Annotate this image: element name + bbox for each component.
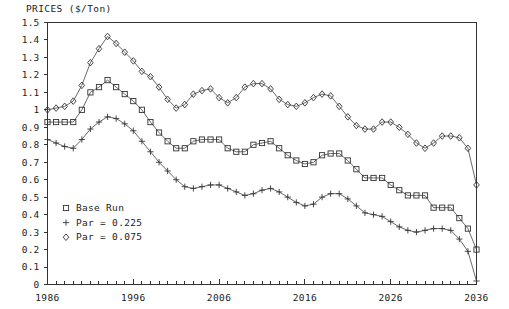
data-point-marker-plus	[44, 136, 50, 142]
data-point-marker-plus	[104, 114, 110, 120]
y-tick-label: 0.7	[22, 157, 40, 168]
data-point-marker-plus	[413, 229, 419, 235]
data-point-marker-plus	[336, 191, 342, 197]
data-point-marker-plus	[53, 140, 59, 146]
y-tick-label: 0.2	[22, 244, 40, 255]
data-point-marker-plus	[225, 185, 231, 191]
y-axis-tick-labels: 00.10.20.30.40.50.60.70.80.911.11.21.31.…	[22, 17, 40, 290]
y-tick-label: 1.5	[22, 17, 40, 28]
y-tick-label: 0.1	[22, 261, 40, 272]
y-tick-label: 0	[34, 279, 40, 290]
data-point-marker-plus	[431, 226, 437, 232]
data-point-marker-plus	[250, 191, 256, 197]
data-point-marker-plus	[259, 187, 265, 193]
x-tick-label: 2006	[207, 292, 231, 303]
legend-label: Base Run	[76, 202, 124, 213]
data-point-marker-square	[63, 205, 68, 210]
y-tick-label: 1.3	[22, 52, 40, 63]
data-point-marker-plus	[285, 194, 291, 200]
data-point-marker-plus	[62, 143, 68, 149]
y-tick-label: 0.9	[22, 122, 40, 133]
legend-label: Par = 0.225	[76, 217, 142, 228]
legend-item-par-0-225: Par = 0.225	[63, 217, 142, 228]
y-tick-label: 1	[34, 104, 40, 115]
data-point-marker-plus	[113, 115, 119, 121]
data-point-marker-plus	[293, 199, 299, 205]
data-point-marker-plus	[439, 226, 445, 232]
x-tick-label: 2036	[464, 292, 488, 303]
data-point-marker-plus	[233, 189, 239, 195]
data-point-marker-plus	[242, 192, 248, 198]
data-point-marker-plus	[396, 224, 402, 230]
chart-legend: Base RunPar = 0.225Par = 0.075	[63, 202, 142, 242]
x-axis-tick-marks	[48, 279, 477, 285]
y-tick-label: 0.6	[22, 174, 40, 185]
data-point-marker-plus	[370, 212, 376, 218]
data-point-marker-plus	[207, 182, 213, 188]
data-point-marker-plus	[302, 203, 308, 209]
data-point-marker-plus	[63, 220, 69, 226]
y-axis-tick-marks	[44, 23, 48, 285]
y-tick-label: 1.2	[22, 69, 40, 80]
price-projection-chart: PRICES ($/Ton) 00.10.20.30.40.50.60.70.8…	[0, 0, 509, 309]
y-tick-label: 1.1	[22, 87, 40, 98]
data-point-marker-plus	[199, 184, 205, 190]
data-point-marker-plus	[388, 219, 394, 225]
data-point-marker-plus	[267, 185, 273, 191]
x-axis-tick-labels: 198619962006201620262036	[35, 292, 488, 303]
data-point-marker-plus	[465, 248, 471, 254]
data-point-marker-diamond	[63, 234, 69, 241]
plot-canvas: 00.10.20.30.40.50.60.70.80.911.11.21.31.…	[0, 0, 509, 309]
series-par-0-225	[44, 114, 479, 284]
data-point-marker-plus	[216, 182, 222, 188]
y-tick-label: 0.4	[22, 209, 40, 220]
legend-item-base-run: Base Run	[63, 202, 124, 213]
data-point-marker-plus	[473, 278, 479, 284]
data-point-marker-plus	[405, 227, 411, 233]
x-tick-label: 1996	[121, 292, 145, 303]
x-tick-label: 1986	[35, 292, 59, 303]
y-tick-label: 0.5	[22, 192, 40, 203]
data-point-marker-plus	[190, 185, 196, 191]
x-tick-label: 2016	[293, 292, 317, 303]
data-point-marker-plus	[276, 189, 282, 195]
plot-frame	[48, 23, 477, 285]
data-point-marker-plus	[379, 213, 385, 219]
data-series-layer	[44, 33, 479, 284]
y-tick-label: 0.3	[22, 227, 40, 238]
y-tick-label: 0.8	[22, 139, 40, 150]
y-tick-label: 1.4	[22, 34, 40, 45]
legend-label: Par = 0.075	[76, 231, 142, 242]
data-point-marker-plus	[422, 227, 428, 233]
x-tick-label: 2026	[378, 292, 402, 303]
series-par-0-075	[45, 33, 480, 188]
legend-item-par-0-075: Par = 0.075	[63, 231, 142, 242]
data-point-marker-plus	[328, 191, 334, 197]
